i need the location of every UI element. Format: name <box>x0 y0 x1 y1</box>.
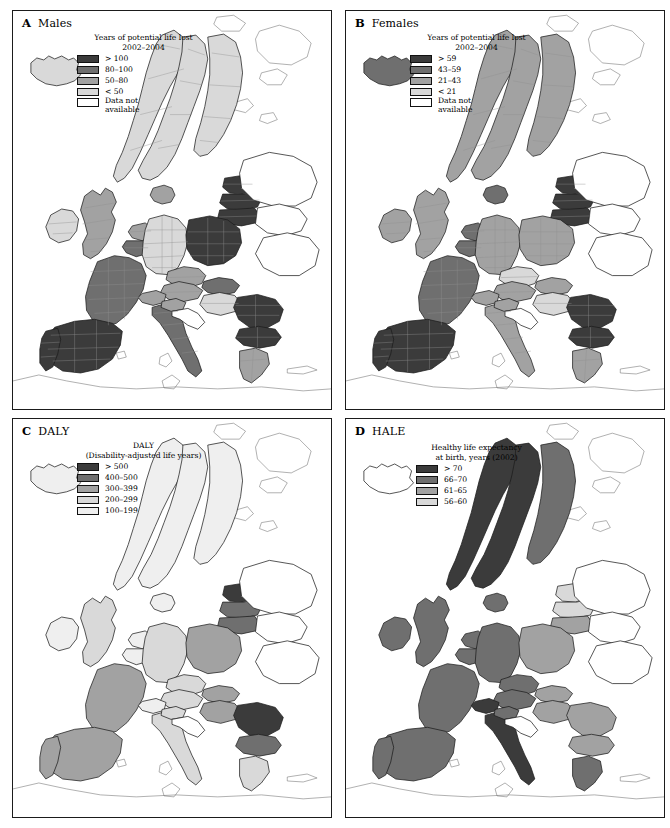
legend-c: DALY (Disability-adjusted life years) > … <box>51 441 236 517</box>
panel-a-letter: A <box>22 16 31 30</box>
legend-swatch <box>416 498 438 507</box>
panel-a-males: AMales Years of potential life lost 2002… <box>12 10 332 410</box>
legend-item: < 21 <box>410 87 559 97</box>
legend-swatch <box>416 487 438 496</box>
legend-label: 400–500 <box>105 474 138 483</box>
legend-swatch <box>410 66 432 75</box>
legend-label: 21–43 <box>438 77 461 86</box>
legend-label: 50–80 <box>105 77 128 86</box>
legend-label: 100–199 <box>105 507 138 516</box>
panel-b-title: Females <box>372 17 419 30</box>
legend-swatch <box>77 463 99 472</box>
legend-swatch <box>410 55 432 64</box>
legend-item: 66–70 <box>416 475 559 485</box>
legend-b-rows: > 59 43–59 21–43 < 21 Data not available <box>394 54 559 114</box>
legend-a-rows: > 100 80–100 50–80 < 50 Data not availab… <box>61 54 226 114</box>
legend-item: 21–43 <box>410 76 559 86</box>
legend-swatch <box>77 485 99 494</box>
legend-swatch <box>77 77 99 86</box>
legend-d: Healthy life expectancy at birth, years … <box>394 443 559 508</box>
legend-swatch <box>77 98 99 107</box>
legend-item: 100–199 <box>77 506 236 516</box>
legend-label: < 50 <box>105 88 123 97</box>
legend-swatch <box>77 55 99 64</box>
legend-label: 200–299 <box>105 496 138 505</box>
legend-label: > 500 <box>105 463 128 472</box>
legend-item: 50–80 <box>77 76 226 86</box>
legend-item: 56–60 <box>416 497 559 507</box>
panel-d-title: HALE <box>372 425 405 438</box>
legend-label: > 100 <box>105 55 128 64</box>
legend-label: 300–399 <box>105 485 138 494</box>
legend-swatch <box>416 476 438 485</box>
panel-b-females: BFemales Years of potential life lost 20… <box>345 10 665 410</box>
legend-label: > 70 <box>444 465 462 474</box>
legend-swatch <box>410 98 432 107</box>
panel-d-label: DHALE <box>355 424 405 438</box>
legend-item: 80–100 <box>77 65 226 75</box>
legend-c-title: DALY (Disability-adjusted life years) <box>51 441 236 460</box>
legend-label: < 21 <box>438 88 456 97</box>
legend-item: 200–299 <box>77 495 236 505</box>
panel-c-letter: C <box>22 424 31 438</box>
legend-item: > 59 <box>410 54 559 64</box>
legend-label: 66–70 <box>444 476 467 485</box>
legend-item: Data not available <box>410 98 559 114</box>
legend-label: 43–59 <box>438 66 461 75</box>
legend-item: 43–59 <box>410 65 559 75</box>
legend-swatch <box>416 465 438 474</box>
legend-item: > 500 <box>77 462 236 472</box>
panel-c-title: DALY <box>38 425 69 438</box>
legend-item: > 100 <box>77 54 226 64</box>
legend-swatch <box>77 496 99 505</box>
panel-b-letter: B <box>355 16 365 30</box>
legend-b-title: Years of potential life lost 2002–2004 <box>394 33 559 52</box>
legend-d-rows: > 70 66–70 61–65 56–60 <box>394 464 559 507</box>
legend-item: < 50 <box>77 87 226 97</box>
figure-four-panel-europe-maps: AMales Years of potential life lost 2002… <box>0 0 670 828</box>
legend-a-title: Years of potential life lost 2002–2004 <box>61 33 226 52</box>
legend-swatch <box>77 474 99 483</box>
legend-swatch <box>77 88 99 97</box>
legend-label: Data not available <box>105 97 140 114</box>
legend-item: > 70 <box>416 464 559 474</box>
legend-label: 61–65 <box>444 487 467 496</box>
legend-c-rows: > 500 400–500 300–399 200–299 100–199 <box>51 462 236 516</box>
legend-a: Years of potential life lost 2002–2004 >… <box>61 33 226 115</box>
legend-label: 56–60 <box>444 498 467 507</box>
legend-label: > 59 <box>438 55 456 64</box>
legend-item: 300–399 <box>77 484 236 494</box>
legend-b: Years of potential life lost 2002–2004 >… <box>394 33 559 115</box>
legend-swatch <box>77 66 99 75</box>
panel-c-daly: CDALY DALY (Disability-adjusted life yea… <box>12 418 332 818</box>
legend-d-title: Healthy life expectancy at birth, years … <box>394 443 559 462</box>
legend-item: 400–500 <box>77 473 236 483</box>
panel-d-hale: DHALE Healthy life expectancy at birth, … <box>345 418 665 818</box>
legend-label: Data not available <box>438 97 473 114</box>
legend-swatch <box>410 77 432 86</box>
legend-swatch <box>77 507 99 516</box>
legend-item: Data not available <box>77 98 226 114</box>
panel-d-letter: D <box>355 424 365 438</box>
legend-swatch <box>410 88 432 97</box>
legend-item: 61–65 <box>416 486 559 496</box>
panel-c-label: CDALY <box>22 424 69 438</box>
panel-b-label: BFemales <box>355 16 419 30</box>
panel-a-label: AMales <box>22 16 72 30</box>
legend-label: 80–100 <box>105 66 133 75</box>
panel-a-title: Males <box>38 17 72 30</box>
